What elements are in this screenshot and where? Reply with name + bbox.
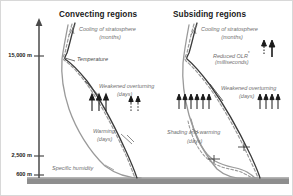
axis-label-600m: 600 m [1, 171, 32, 177]
annotation-shading-warming-line1: Shading and warming [167, 129, 220, 137]
annotation-cooling-stratosphere-right-line1: Cooling of stratosphere [201, 26, 258, 34]
axis-label-2500m: 2,500 m [1, 152, 32, 158]
curve-specific-humidity-right [183, 25, 257, 179]
annotation-cooling-stratosphere-left-line1: Cooling of stratosphere [79, 26, 136, 34]
panel-title-convecting: Convecting regions [59, 10, 137, 19]
annotation-overturning-left-line1: Weakened overturning [99, 83, 154, 91]
annotation-shading-warming-line2: (days) [187, 138, 202, 146]
annotation-cooling-stratosphere-right-line2: (months) [201, 34, 263, 42]
arrow-cluster-updraft-strong-left [90, 94, 109, 111]
climate-response-figure: Convecting regions Subsiding regions 15,… [0, 0, 293, 196]
annotation-specific-humidity-left: Specific humidity [52, 165, 93, 173]
annotation-warming-left-line2: (days) [97, 136, 112, 144]
arrow-cluster-updraft-weak-right [258, 94, 280, 109]
altitude-axis [34, 18, 44, 178]
arrow-cluster-updraft-strong-right [177, 94, 211, 109]
curve-boundary-layer-right [191, 119, 255, 178]
warming-offset-ticks-right [208, 143, 250, 163]
annotation-reduced-olr-footnote-marker: * [248, 51, 250, 56]
annotation-overturning-right-line1: Weakened overturning [221, 85, 276, 93]
panel-title-subsiding: Subsiding regions [173, 10, 246, 19]
annotation-cooling-stratosphere-left-line2: (months) [79, 34, 141, 42]
leader-warming-left-tick [127, 135, 134, 142]
axis-label-15000m: 15,000 m [1, 52, 32, 58]
annotation-reduced-olr-text: Reduced OLR [213, 53, 248, 59]
annotation-reduced-olr-line2: (milliseconds) [215, 59, 249, 67]
annotation-overturning-right-line2: (days) [239, 93, 254, 101]
annotation-temperature-left: Temperature [77, 56, 108, 64]
curve-temperature-right [187, 23, 260, 178]
annotation-warming-left-line1: Warming [93, 128, 115, 136]
annotation-overturning-left-line2: (days) [117, 91, 132, 99]
arrow-cluster-olr-outgoing [262, 40, 275, 57]
